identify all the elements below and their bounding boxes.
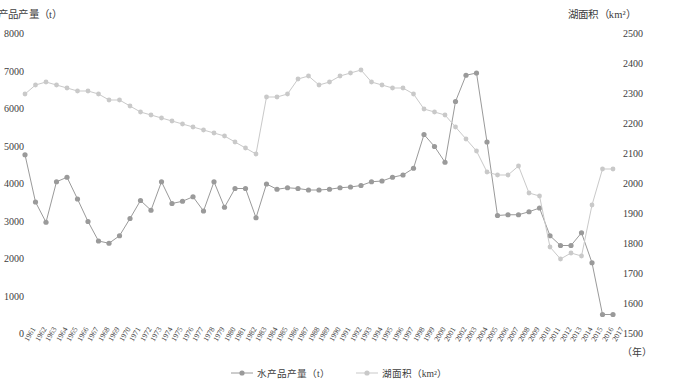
data-point [159, 179, 164, 184]
data-point [275, 95, 280, 100]
data-point [548, 245, 553, 250]
data-point [243, 146, 248, 151]
data-point [411, 166, 416, 171]
data-point [201, 128, 206, 133]
chart-legend: 水产品产量（t）湖面积（km²） [0, 366, 678, 380]
data-point [85, 219, 90, 224]
data-point [422, 107, 427, 112]
data-point [359, 68, 364, 73]
right-tick-2300: 2300 [623, 89, 643, 99]
data-point [169, 201, 174, 206]
legend-label: 水产品产量（t） [257, 366, 330, 380]
left-tick-8000: 8000 [4, 29, 24, 39]
left-tick-5000: 5000 [4, 142, 24, 152]
data-point [306, 74, 311, 79]
data-point [201, 208, 206, 213]
data-point [75, 89, 80, 94]
data-point [212, 131, 217, 136]
right-tick-1900: 1900 [623, 209, 643, 219]
data-point [190, 194, 195, 199]
right-tick-2500: 2500 [623, 29, 643, 39]
data-point [43, 220, 48, 225]
data-point [106, 241, 111, 246]
left-tick-2000: 2000 [4, 254, 24, 264]
series-line [25, 70, 613, 259]
series-line [25, 73, 613, 315]
data-point [369, 179, 374, 184]
data-point [516, 164, 521, 169]
data-point [180, 199, 185, 204]
data-point [463, 73, 468, 78]
data-point [590, 203, 595, 208]
data-point [274, 187, 279, 192]
data-point [117, 98, 122, 103]
data-point [600, 167, 605, 172]
data-point [369, 80, 374, 85]
data-point [558, 243, 563, 248]
data-point [317, 83, 322, 88]
legend-item-lake-area[interactable]: 湖面积（km²） [356, 366, 447, 380]
plot-area [25, 34, 613, 334]
data-point [191, 125, 196, 130]
data-point [464, 137, 469, 142]
data-point [316, 187, 321, 192]
series-lake-area [23, 68, 616, 262]
data-point [558, 257, 563, 262]
data-point [285, 92, 290, 97]
data-point [22, 152, 27, 157]
data-point [253, 215, 258, 220]
data-point [401, 86, 406, 91]
data-point [390, 86, 395, 91]
data-point [453, 125, 458, 130]
data-point [327, 187, 332, 192]
data-point [569, 251, 574, 256]
data-point [264, 181, 269, 186]
data-point [327, 80, 332, 85]
data-point [254, 152, 259, 157]
data-point [128, 104, 133, 109]
data-point [222, 205, 227, 210]
data-point [579, 254, 584, 259]
data-point [611, 167, 616, 172]
data-point [170, 119, 175, 124]
data-point [390, 175, 395, 180]
data-point [379, 178, 384, 183]
data-point [33, 83, 38, 88]
right-tick-1800: 1800 [623, 239, 643, 249]
data-point [33, 199, 38, 204]
data-point [579, 230, 584, 235]
data-point [23, 92, 28, 97]
data-point [495, 173, 500, 178]
data-point [474, 70, 479, 75]
legend-label: 湖面积（km²） [382, 366, 447, 380]
data-point [243, 186, 248, 191]
data-point [432, 144, 437, 149]
data-point [222, 134, 227, 139]
data-point [537, 194, 542, 199]
right-tick-1700: 1700 [623, 269, 643, 279]
x-axis-unit-label: （年） [622, 344, 652, 359]
right-tick-2200: 2200 [623, 119, 643, 129]
left-axis-title: 产品产量（t） [0, 6, 62, 21]
data-point [338, 74, 343, 79]
right-tick-2000: 2000 [623, 179, 643, 189]
right-tick-1600: 1600 [623, 299, 643, 309]
data-point [411, 92, 416, 97]
data-point [138, 198, 143, 203]
data-point [75, 196, 80, 201]
data-point [358, 183, 363, 188]
data-point [568, 243, 573, 248]
legend-marker-icon [356, 368, 378, 379]
data-point [306, 187, 311, 192]
data-point [44, 80, 49, 85]
legend-item-fishery-output[interactable]: 水产品产量（t） [231, 366, 330, 380]
right-tick-2400: 2400 [623, 59, 643, 69]
data-point [380, 83, 385, 88]
left-tick-7000: 7000 [4, 67, 24, 77]
data-point [526, 209, 531, 214]
left-tick-4000: 4000 [4, 179, 24, 189]
data-point [233, 140, 238, 145]
data-point [516, 212, 521, 217]
data-point [54, 83, 59, 88]
data-point [484, 139, 489, 144]
